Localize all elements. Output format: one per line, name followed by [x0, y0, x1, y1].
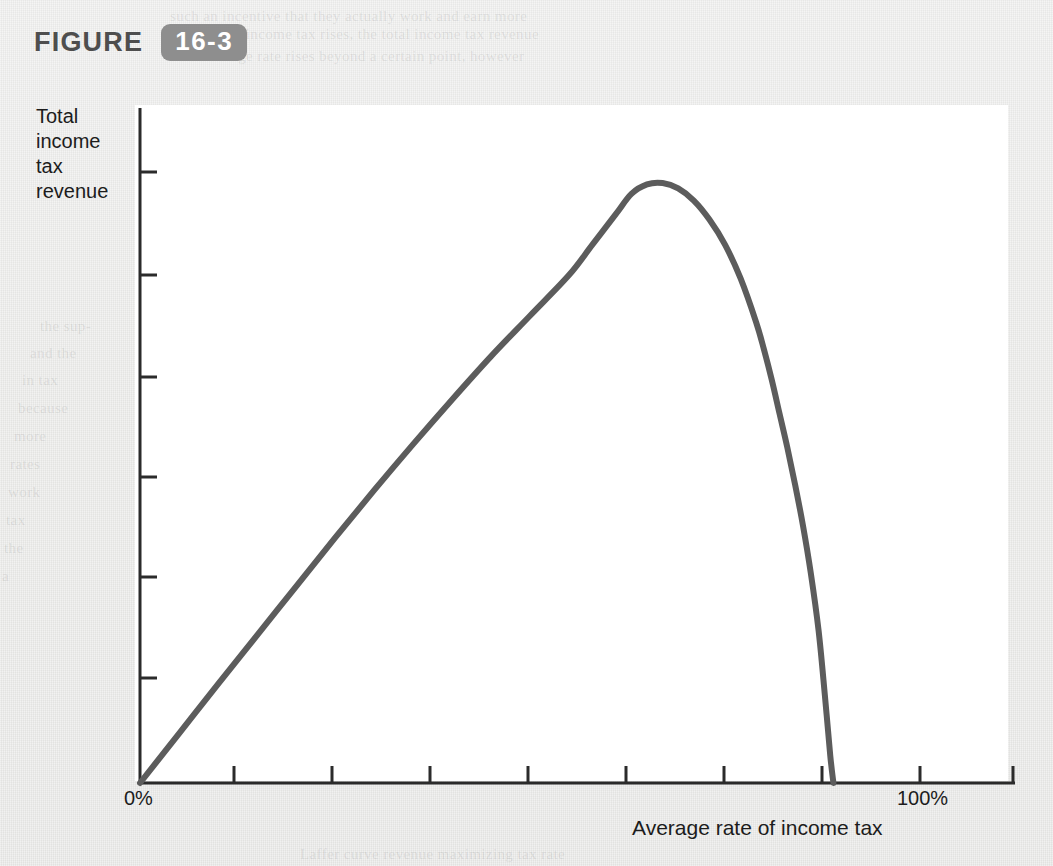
figure-word-label: FIGURE: [34, 27, 143, 58]
y-axis-label-line-3: tax: [36, 154, 128, 179]
x-axis-tick-label-max: 100%: [897, 787, 948, 810]
figure-number-badge: 16-3: [161, 24, 247, 61]
y-axis-label-line-1: Total: [36, 104, 128, 129]
y-axis-label-line-4: revenue: [36, 179, 128, 204]
y-axis-label: Total income tax revenue: [36, 104, 128, 204]
y-axis-label-line-2: income: [36, 129, 128, 154]
figure-header: FIGURE 16-3: [34, 24, 247, 61]
x-axis-tick-label-origin: 0%: [124, 787, 153, 810]
chart-plate: [135, 105, 1008, 781]
x-axis-label: Average rate of income tax: [632, 816, 883, 840]
